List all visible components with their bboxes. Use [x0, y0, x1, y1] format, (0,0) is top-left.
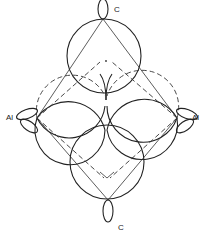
orbital-diagram	[0, 0, 204, 240]
atom-label-c-bottom: C	[118, 224, 124, 232]
left-upper-orbital-solid-arc	[37, 106, 105, 138]
top-c-lobe	[98, 0, 108, 19]
bond-c-bottom-al-left	[37, 118, 108, 200]
right-lower-orbital-arc	[107, 118, 178, 160]
atom-label-c-top: C	[114, 6, 120, 14]
bond-c-top-al-right	[103, 19, 177, 118]
atom-label-al-right: Al	[192, 114, 199, 122]
lower-center-vertex	[100, 172, 114, 178]
right-upper-orbital-solid-arc	[107, 106, 177, 142]
upper-center-dot	[105, 60, 107, 62]
left-lower-orbital-top-arc	[37, 102, 105, 130]
bottom-c-lobe	[103, 200, 113, 222]
bond-c-bottom-al-right	[108, 118, 177, 200]
center-upper-cusp	[100, 74, 106, 100]
left-upper-orbital-dashed-arc	[36, 75, 105, 118]
atom-label-al-left: Al	[6, 114, 13, 122]
